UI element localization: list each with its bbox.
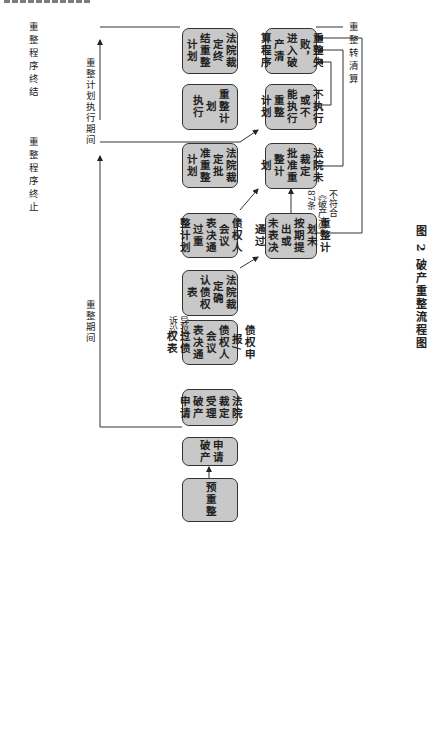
box-label: 法院裁定 受理破产 申请 (178, 390, 243, 425)
box-label: 预重整 (204, 482, 217, 518)
box-court-accept: 法院裁定 受理破产 申请 (182, 389, 238, 426)
box-label: 重整失败， 进入破产清 算程序 (259, 29, 324, 73)
box-label: 债权人会议 表决通过重 整计划 (178, 214, 243, 257)
box-court-not-approve: 法院未裁定 批准重整计 划 (265, 143, 317, 189)
box-apply-bankruptcy: 申请 破产 (182, 437, 238, 466)
box-label: 法院未裁定 批准重整计 划 (259, 144, 324, 188)
box-claims-declaration: 债权申报/ 债权人会议 表决通过债 权表 (182, 320, 238, 365)
box-court-end-plan: 法院裁定终 结重整计划 (182, 28, 238, 74)
box-label: 法院裁定确 认债权表 (184, 271, 236, 315)
milestone-to-liquidation: 重整转清算 (346, 22, 360, 87)
period-reorganization: 重整期间 (83, 300, 97, 344)
box-label: 法院裁定终 结重整计划 (184, 29, 236, 73)
period-plan-execution: 重整计划执行期间 (83, 58, 97, 146)
box-plan-execution: 重整计划 执行 (182, 84, 238, 130)
box-pre-reorganization: 预重整 (182, 478, 238, 522)
box-label: 不执行或不 能执行重整 计划 (259, 85, 324, 129)
objection-note: 异议/ 诉讼 (167, 316, 189, 337)
box-label: 法院裁定批 准重整计划 (184, 144, 236, 187)
box-label: 重整计划 执行 (191, 85, 230, 129)
box-liquidation: 重整失败， 进入破产清 算程序 (265, 28, 317, 74)
box-court-confirm-claims: 法院裁定确 认债权表 (182, 270, 238, 316)
box-court-approve-plan: 法院裁定批 准重整计划 (182, 143, 238, 188)
milestone-reorg-end: 重整程序终结 (26, 22, 40, 100)
box-label: 申请 破产 (197, 440, 223, 464)
figure-caption: 图 2 破产重整流程图 (412, 225, 428, 350)
non-compliance-note: 不符合 《破产法》 87条 (305, 190, 338, 235)
box-not-executed: 不执行或不 能执行重整 计划 (265, 84, 317, 130)
milestone-reorg-stop: 重整程序终止 (26, 137, 40, 215)
box-creditors-vote-plan: 债权人会议 表决通过重 整计划 (182, 213, 238, 258)
